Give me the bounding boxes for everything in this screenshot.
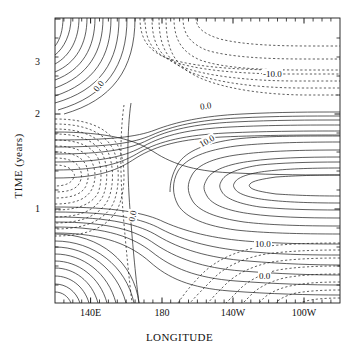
contour-group-upper-left-positive: [55, 18, 127, 110]
y-axis-title: TIME (years): [12, 96, 24, 236]
contour-group-lower-east-positive: [55, 212, 340, 295]
contour-negative-group: [55, 18, 340, 303]
axes-frame: [55, 18, 340, 303]
y-tick-label-3: 3: [24, 56, 40, 67]
contour-group-lower-left-positive: [55, 241, 134, 303]
y-tick-label-2: 2: [24, 108, 40, 119]
x-axis-ticks: [64, 18, 331, 303]
x-tick-label-140e: 140E: [69, 307, 113, 318]
x-axis-title: LONGITUDE: [0, 331, 359, 343]
contour-figure: 0.0 -10.0 0.0 10.0 0.0 10.0 0.0 140E 180…: [0, 0, 359, 356]
x-tick-label-100w: 100W: [282, 307, 326, 318]
contour-label-mid-zero: 0.0: [198, 100, 213, 112]
contour-zero-upper-left: [64, 18, 135, 114]
y-tick-label-1: 1: [24, 203, 40, 214]
x-tick-label-180: 180: [140, 307, 184, 318]
contour-label-upper-right-neg-ten: -10.0: [262, 69, 283, 79]
contour-group-central-positive: [174, 142, 341, 234]
contour-label-lower-zero: 0.0: [258, 271, 271, 281]
contour-plot-canvas: [0, 0, 359, 356]
x-tick-label-140w: 140W: [211, 307, 255, 318]
contour-zero-lower-left: [55, 234, 139, 303]
contour-lines-group: [55, 18, 340, 303]
contour-label-lower-ten: 10.0: [254, 239, 272, 249]
